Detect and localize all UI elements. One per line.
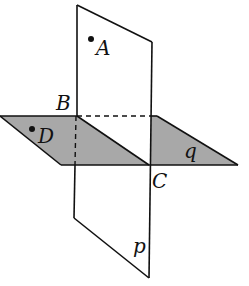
- point-a-dot: [88, 36, 94, 42]
- label-d: D: [37, 124, 54, 148]
- two-planes-diagram: A B D q C p: [0, 0, 249, 286]
- label-c: C: [152, 169, 167, 193]
- label-a: A: [94, 36, 110, 60]
- plane-p-top-edge: [77, 5, 152, 42]
- label-q: q: [184, 139, 197, 163]
- label-p: p: [133, 234, 146, 258]
- plane-q-left-region: [0, 116, 149, 165]
- label-b: B: [55, 91, 71, 115]
- plane-p-left-edge-bottom: [74, 165, 75, 218]
- point-d-dot: [29, 126, 35, 132]
